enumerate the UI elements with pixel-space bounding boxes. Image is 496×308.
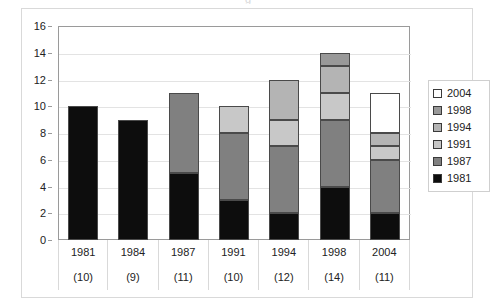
bar-1991[interactable] — [219, 26, 249, 240]
legend-swatch-icon — [433, 89, 442, 98]
bar-1994[interactable] — [269, 26, 299, 240]
legend-item-2004[interactable]: 2004 — [433, 85, 486, 102]
legend-item-1991[interactable]: 1991 — [433, 136, 486, 153]
bar-segment-1998-1981[interactable] — [320, 187, 350, 241]
y-axis-tick-label: 2 — [40, 207, 46, 219]
legend-label: 1994 — [447, 119, 471, 136]
y-axis-tick-label: 16 — [34, 20, 46, 32]
y-axis-tick — [48, 80, 52, 81]
bar-segment-1994-1981[interactable] — [269, 213, 299, 240]
y-axis-tick — [48, 213, 52, 214]
legend-item-1994[interactable]: 1994 — [433, 119, 486, 136]
bar-segment-2004-1981[interactable] — [370, 213, 400, 240]
bar-segment-2004-2004[interactable] — [370, 93, 400, 133]
bar-segment-2004-1994[interactable] — [370, 133, 400, 146]
legend-item-1981[interactable]: 1981 — [433, 170, 486, 187]
legend-swatch-icon — [433, 140, 442, 149]
y-axis-tick-label: 4 — [40, 181, 46, 193]
y-axis-tick — [48, 26, 52, 27]
x-axis-year-label: 1994 — [259, 240, 309, 265]
y-axis-tick-label: 12 — [34, 74, 46, 86]
legend-label: 1981 — [447, 170, 471, 187]
x-axis-year-label: 2004 — [360, 240, 410, 265]
bar-segment-1987-1981[interactable] — [169, 173, 199, 240]
legend-label: 2004 — [447, 85, 471, 102]
y-axis-tick-label: 6 — [40, 154, 46, 166]
x-axis-total-label: (12) — [259, 265, 309, 290]
legend-label: 1991 — [447, 136, 471, 153]
legend-item-1998[interactable]: 1998 — [433, 102, 486, 119]
legend: 200419981994199119871981 — [428, 80, 490, 192]
bar-segment-1994-1987[interactable] — [269, 146, 299, 213]
legend-label: 1998 — [447, 102, 471, 119]
bar-segment-1991-1991[interactable] — [219, 106, 249, 133]
bar-segment-1998-1998[interactable] — [320, 53, 350, 66]
legend-item-1987[interactable]: 1987 — [433, 153, 486, 170]
bar-2004[interactable] — [370, 26, 400, 240]
y-axis: 0246810121416 — [0, 26, 52, 240]
x-axis-label-table: 1981198419871991199419982004 (10)(9)(11)… — [58, 240, 410, 290]
bar-1998[interactable] — [320, 26, 350, 240]
bar-1981[interactable] — [68, 26, 98, 240]
legend-swatch-icon — [433, 174, 442, 183]
y-axis-tick-label: 0 — [40, 234, 46, 246]
y-axis-tick — [48, 240, 52, 241]
bar-1987[interactable] — [169, 26, 199, 240]
bar-segment-1998-1991[interactable] — [320, 93, 350, 120]
top-cropped-glyph: g — [0, 0, 496, 4]
x-axis-total-label: (10) — [209, 265, 259, 290]
bar-segment-1991-1981[interactable] — [219, 200, 249, 240]
bar-segment-1981-1981[interactable] — [68, 106, 98, 240]
chart-screenshot: g 0246810121416 198119841987199119941998… — [0, 0, 496, 308]
bar-segment-2004-1991[interactable] — [370, 146, 400, 159]
bar-segment-1991-1987[interactable] — [219, 133, 249, 200]
bar-series-group — [58, 26, 410, 240]
x-axis-year-label: 1981 — [58, 240, 108, 265]
x-axis-total-label: (9) — [108, 265, 158, 290]
bar-segment-1987-1987[interactable] — [169, 93, 199, 173]
x-axis-total-label: (14) — [309, 265, 359, 290]
x-axis-total-label: (10) — [58, 265, 108, 290]
bar-segment-2004-1987[interactable] — [370, 160, 400, 214]
y-axis-tick-label: 8 — [40, 127, 46, 139]
bar-1984[interactable] — [118, 26, 148, 240]
y-axis-tick-label: 14 — [34, 47, 46, 59]
legend-swatch-icon — [433, 123, 442, 132]
bar-segment-1994-1994[interactable] — [269, 80, 299, 120]
x-axis-year-label: 1998 — [309, 240, 359, 265]
y-axis-tick — [48, 53, 52, 54]
x-axis-year-label: 1991 — [209, 240, 259, 265]
y-axis-tick — [48, 106, 52, 107]
y-axis-tick — [48, 133, 52, 134]
x-axis-year-row: 1981198419871991199419982004 — [58, 240, 410, 265]
x-axis-total-row: (10)(9)(11)(10)(12)(14)(11) — [58, 265, 410, 290]
y-axis-tick — [48, 187, 52, 188]
bar-segment-1998-1987[interactable] — [320, 120, 350, 187]
x-axis-year-label: 1987 — [159, 240, 209, 265]
bar-segment-1998-1994[interactable] — [320, 66, 350, 93]
y-axis-tick-label: 10 — [34, 100, 46, 112]
legend-swatch-icon — [433, 157, 442, 166]
x-axis-total-label: (11) — [360, 265, 410, 290]
plot-wrapper — [58, 26, 410, 240]
legend-label: 1987 — [447, 153, 471, 170]
y-axis-tick — [48, 160, 52, 161]
x-axis-year-label: 1984 — [108, 240, 158, 265]
bar-segment-1994-1991[interactable] — [269, 120, 299, 147]
bar-segment-1984-1981[interactable] — [118, 120, 148, 240]
legend-swatch-icon — [433, 106, 442, 115]
x-axis-total-label: (11) — [159, 265, 209, 290]
